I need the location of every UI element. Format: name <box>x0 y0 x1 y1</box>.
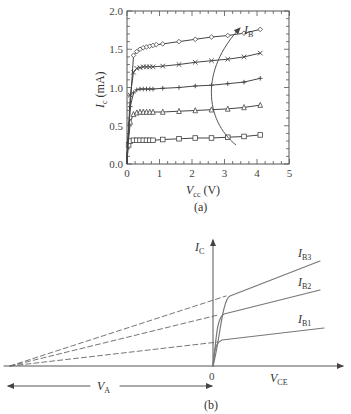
label-ib3: IB3 <box>297 246 311 262</box>
vce-label: VCE <box>270 371 288 387</box>
y-axis-label: Ic (mA) <box>93 71 109 109</box>
curve-ib2 <box>213 290 320 366</box>
x-tick-label: 1 <box>157 167 163 179</box>
extrapolation-ib3 <box>10 296 226 366</box>
x-axis-label: Vcc (V) <box>186 183 220 199</box>
ib-increase-arrow <box>211 28 240 145</box>
series-diamond <box>127 27 263 164</box>
ib-arrow-label: IB <box>243 23 253 39</box>
label-ib1: IB1 <box>297 312 311 328</box>
series-square <box>126 133 262 164</box>
series-triangle <box>127 102 263 164</box>
caption-a: (a) <box>194 200 207 214</box>
curve-ib3 <box>213 261 320 366</box>
panel-b: IB3 IB2 IB1 IC VCE 0 VA (b) <box>4 240 343 412</box>
panel-a: 0.00.51.01.52.0012345 IB Ic (mA) Vcc (V)… <box>93 5 293 214</box>
ic-label: IC <box>194 240 204 256</box>
curve-ib1 <box>213 328 324 366</box>
x-tick-label: 4 <box>254 167 260 179</box>
figure-canvas: 0.00.51.01.52.0012345 IB Ic (mA) Vcc (V)… <box>0 0 351 414</box>
data-series <box>126 27 262 164</box>
x-tick-label: 5 <box>287 167 293 179</box>
extrapolation-ib2 <box>10 315 218 366</box>
y-tick-label: 0.5 <box>109 120 123 132</box>
x-tick-label: 3 <box>222 167 228 179</box>
label-ib2: IB2 <box>297 275 311 291</box>
va-label: VA <box>97 379 110 395</box>
y-tick-label: 0.0 <box>109 158 123 170</box>
caption-b: (b) <box>204 398 218 412</box>
y-tick-label: 2.0 <box>109 5 123 17</box>
origin-label: 0 <box>209 370 215 382</box>
x-tick-label: 2 <box>189 167 195 179</box>
y-tick-label: 1.0 <box>109 82 123 94</box>
y-tick-label: 1.5 <box>109 43 123 55</box>
x-tick-label: 0 <box>124 167 130 179</box>
series-plus <box>127 76 263 164</box>
extrapolation-ib1 <box>10 342 218 366</box>
